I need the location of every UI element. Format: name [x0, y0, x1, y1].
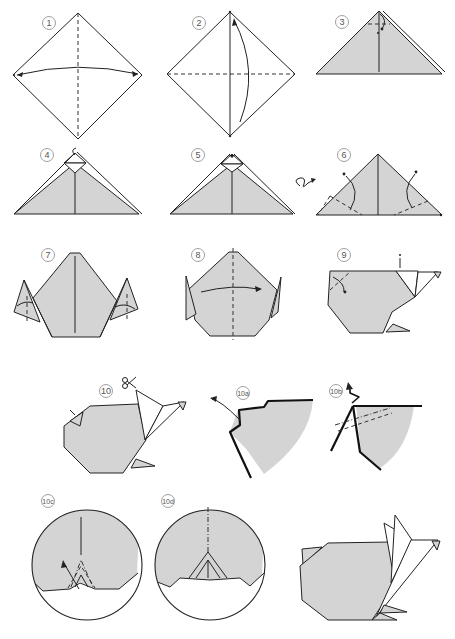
step-5: 5 — [170, 149, 295, 215]
step-8: 8 — [186, 248, 281, 340]
step-10c-label: 10c — [42, 498, 54, 505]
step-2-label: 2 — [196, 18, 201, 28]
final-model — [300, 515, 440, 620]
step-10d: 10d — [150, 495, 265, 621]
step-3: 3 — [316, 11, 445, 74]
step-1-label: 1 — [46, 18, 51, 28]
step-6: 6 — [316, 149, 442, 217]
step-3-label: 3 — [339, 17, 344, 27]
step-10c: 10c — [28, 495, 142, 621]
step-9: 9 — [328, 249, 441, 334]
step-10-label: 10 — [101, 386, 111, 396]
step-10a-label: 10a — [237, 390, 249, 397]
step-8-label: 8 — [195, 250, 200, 260]
step-5-label: 5 — [195, 150, 200, 160]
step-10a: 10a — [210, 387, 313, 479]
step-10b-label: 10b — [330, 388, 342, 395]
origami-diagram: 1 2 3 4 — [0, 0, 455, 639]
step-10d-label: 10d — [162, 498, 174, 505]
step-6-label: 6 — [341, 150, 346, 160]
step-10b: 10b — [330, 382, 423, 470]
step-7: 7 — [14, 249, 138, 338]
step-4-label: 4 — [44, 150, 49, 160]
step-2: 2 — [167, 11, 295, 137]
turn-over-icon — [296, 178, 316, 187]
step-9-label: 9 — [341, 250, 346, 260]
step-7-label: 7 — [45, 250, 50, 260]
step-4: 4 — [14, 148, 142, 214]
step-10: 10 — [64, 377, 186, 473]
step-1: 1 — [13, 13, 142, 139]
scissors-icon — [123, 377, 137, 389]
